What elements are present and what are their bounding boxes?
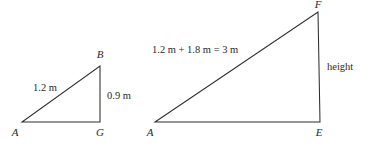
large-triangle-vertical-leg-label: height: [327, 61, 353, 72]
large-triangle-group: A E F 1.2 m + 1.8 m = 3 m height: [146, 0, 354, 138]
small-triangle-vertical-leg-label: 0.9 m: [107, 90, 131, 101]
large-triangle-vertex-label-a: A: [146, 126, 154, 138]
large-triangle-hypotenuse-label: 1.2 m + 1.8 m = 3 m: [152, 44, 238, 55]
small-triangle-vertex-label-g: G: [96, 126, 104, 138]
large-triangle-vertex-label-f: F: [314, 0, 322, 10]
small-triangle-group: A G B 1.2 m 0.9 m: [11, 48, 131, 138]
small-triangle-vertex-label-a: A: [11, 126, 19, 138]
small-triangle-hypotenuse-label: 1.2 m: [33, 82, 57, 93]
small-triangle-outline: [22, 66, 100, 122]
large-triangle-outline: [155, 12, 320, 122]
geometry-canvas: A G B 1.2 m 0.9 m A E F 1.2 m + 1.8 m = …: [0, 0, 366, 150]
small-triangle-vertex-label-b: B: [97, 48, 104, 60]
large-triangle-vertex-label-e: E: [315, 126, 323, 138]
geometry-figure: A G B 1.2 m 0.9 m A E F 1.2 m + 1.8 m = …: [0, 0, 366, 150]
